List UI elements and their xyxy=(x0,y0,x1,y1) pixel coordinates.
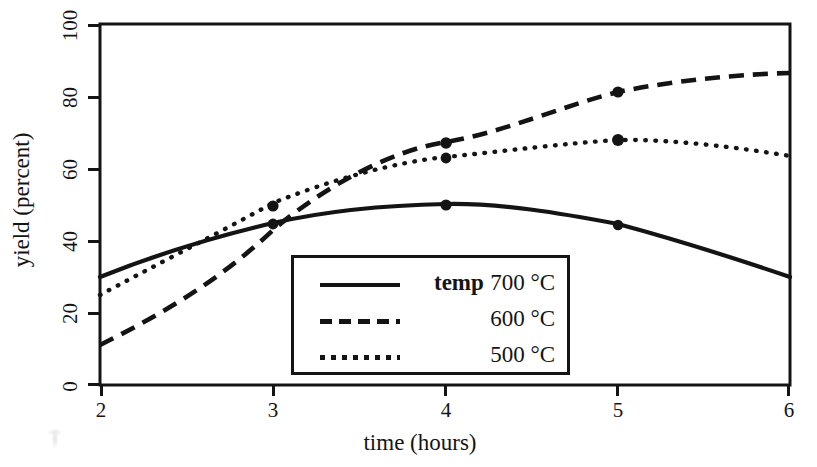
x-tick-label-1: 3 xyxy=(268,400,279,421)
data-point xyxy=(441,153,452,164)
chart-figure: 2 3 4 5 6 0 20 40 60 80 100 time (hours)… xyxy=(0,0,817,467)
data-point xyxy=(267,200,278,211)
legend-line-sample-dotted-icon xyxy=(320,355,400,360)
legend-line-sample-solid-icon xyxy=(320,283,400,287)
y-axis-title: yield (percent) xyxy=(9,133,35,268)
data-point xyxy=(612,86,623,97)
legend-row-600c: 600 °C xyxy=(294,304,567,338)
y-tick-label-3: 60 xyxy=(60,152,81,188)
y-axis-ticks xyxy=(88,26,100,385)
y-tick-label-5: 100 xyxy=(60,3,81,49)
legend-value-500c: 500 °C xyxy=(490,342,555,368)
x-axis-ticks xyxy=(102,385,789,396)
plot-area xyxy=(0,0,817,467)
data-point xyxy=(268,219,279,230)
y-tick-label-0: 0 xyxy=(60,375,81,399)
chart-legend: temp 700 °C 600 °C 500 °C xyxy=(291,255,570,375)
legend-line-sample-dashed-icon xyxy=(320,319,400,324)
y-tick-label-1: 20 xyxy=(60,296,81,332)
data-point xyxy=(612,134,624,146)
x-tick-label-4: 6 xyxy=(784,400,795,421)
legend-group-label: temp xyxy=(434,270,484,296)
x-tick-label-0: 2 xyxy=(96,400,107,421)
data-point xyxy=(613,220,623,230)
legend-value-700c: 700 °C xyxy=(490,270,555,296)
y-tick-label-2: 40 xyxy=(60,224,81,260)
data-point xyxy=(440,199,451,210)
legend-row-700c: temp 700 °C xyxy=(294,268,567,302)
legend-row-500c: 500 °C xyxy=(294,340,567,374)
data-point xyxy=(440,137,452,149)
x-tick-label-2: 4 xyxy=(441,400,452,421)
x-axis-title: time (hours) xyxy=(363,430,476,456)
y-tick-label-4: 80 xyxy=(60,80,81,116)
legend-value-600c: 600 °C xyxy=(490,306,555,332)
x-tick-label-3: 5 xyxy=(613,400,624,421)
